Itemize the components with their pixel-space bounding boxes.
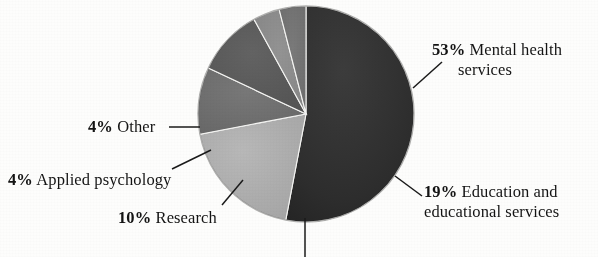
- pie-label-percent-mental: 53%: [432, 40, 465, 59]
- pie-label-text-mental-line1: Mental health: [470, 40, 562, 59]
- pie-label-mental-health-services: 53% Mental health services: [432, 40, 598, 80]
- pie-label-text-education-line2: educational services: [424, 202, 598, 222]
- pie-label-education: 19% Education and educational services: [424, 182, 598, 222]
- pie-label-other: 4% Other: [88, 117, 155, 137]
- pie-label-text-education-line1: Education and: [462, 182, 558, 201]
- pie-label-text-research: Research: [156, 208, 217, 227]
- callout-line-applied-psychology: [172, 150, 211, 169]
- pie-chart-figure: 53% Mental health services 19% Education…: [0, 0, 598, 257]
- pie-label-text-applied: Applied psychology: [36, 170, 171, 189]
- pie-label-applied-psychology: 4% Applied psychology: [8, 170, 171, 190]
- callout-line-education: [395, 176, 422, 196]
- pie-label-text-other: Other: [117, 117, 155, 136]
- pie-label-percent-applied: 4%: [8, 170, 33, 189]
- pie-label-research: 10% Research: [118, 208, 217, 228]
- pie-label-text-mental-line2: services: [432, 60, 598, 80]
- pie-label-percent-other: 4%: [88, 117, 113, 136]
- pie-label-percent-education: 19%: [424, 182, 457, 201]
- pie-label-percent-research: 10%: [118, 208, 151, 227]
